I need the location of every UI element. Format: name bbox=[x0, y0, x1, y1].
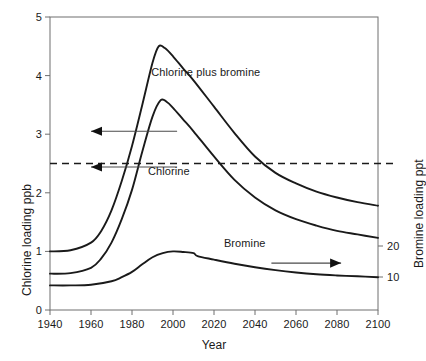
y-tick-label-right: 20 bbox=[387, 240, 407, 252]
x-tick-label: 1960 bbox=[79, 318, 104, 330]
series-line bbox=[50, 251, 378, 285]
x-tick-label: 2000 bbox=[161, 318, 186, 330]
x-tick-label: 2060 bbox=[284, 318, 309, 330]
y-tick-label-left: 2 bbox=[24, 187, 42, 199]
x-tick-label: 2100 bbox=[366, 318, 391, 330]
x-tick-label: 1940 bbox=[38, 318, 63, 330]
y-tick-label-left: 5 bbox=[24, 11, 42, 23]
series-annotation-label: Chlorine plus bromine bbox=[151, 66, 260, 78]
y-axis-right-title: Bromine loading ppt bbox=[412, 159, 426, 268]
x-tick-label: 1980 bbox=[120, 318, 145, 330]
x-axis-title: Year bbox=[202, 338, 227, 352]
x-tick-label: 2080 bbox=[325, 318, 350, 330]
y-tick-label-left: 1 bbox=[24, 245, 42, 257]
y-axis-left-title: Chlorine loading ppb bbox=[20, 184, 34, 296]
axis-pointer-arrow bbox=[271, 259, 341, 268]
x-tick-label: 2040 bbox=[243, 318, 268, 330]
x-tick-label: 2020 bbox=[202, 318, 227, 330]
axis-pointer-arrows bbox=[91, 127, 341, 268]
series-annotation-label: Bromine bbox=[224, 237, 266, 249]
y-tick-label-left: 4 bbox=[24, 70, 42, 82]
y-tick-label-left: 0 bbox=[24, 304, 42, 316]
y-tick-label-left: 3 bbox=[24, 128, 42, 140]
series-line bbox=[50, 99, 378, 273]
series-annotation-label: Chlorine bbox=[148, 165, 190, 177]
y-tick-label-right: 10 bbox=[387, 271, 407, 283]
